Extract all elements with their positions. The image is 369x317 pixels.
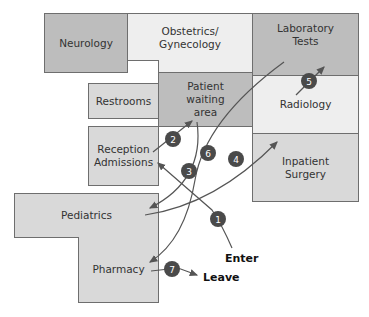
svg-text:2: 2 [170,135,176,145]
svg-text:5: 5 [306,77,312,87]
patient-flow-arrows: 1 2 3 4 5 6 7 [0,0,369,317]
svg-text:4: 4 [233,155,239,165]
leave-label: Leave [203,271,240,284]
enter-label: Enter [225,252,259,265]
svg-text:1: 1 [215,215,221,225]
svg-text:7: 7 [169,265,175,275]
svg-text:6: 6 [205,149,211,159]
svg-text:3: 3 [186,167,192,177]
arrow-step-6 [150,62,284,262]
